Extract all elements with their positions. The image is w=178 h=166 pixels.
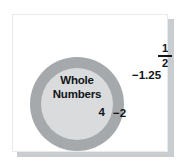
whole-numbers-member-value: 4	[47, 106, 105, 118]
fraction-denominator: 2	[157, 58, 173, 69]
whole-numbers-label: Whole Numbers	[47, 73, 107, 101]
decimal-value: −1.25	[132, 69, 161, 81]
integers-member-value: −2	[113, 107, 126, 119]
fraction-numerator: 1	[157, 43, 173, 54]
fraction-one-half: 1 2	[157, 43, 173, 69]
whole-numbers-label-line1: Whole	[60, 74, 94, 86]
whole-numbers-label-line2: Numbers	[53, 88, 101, 100]
diagram-panel: Whole Numbers 4 −2 1 2 −1.25	[12, 14, 168, 152]
diagram-canvas: Whole Numbers 4 −2 1 2 −1.25	[0, 0, 178, 166]
